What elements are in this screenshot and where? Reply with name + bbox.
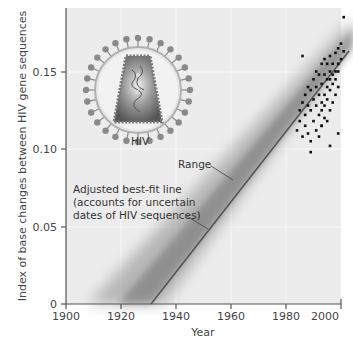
data-point [331, 63, 334, 66]
data-point [331, 101, 334, 104]
x-tick-label: 1940 [162, 310, 190, 323]
x-axis-title: Year [190, 326, 215, 339]
data-point [334, 70, 337, 73]
chart: 0.15 0.10 0.05 0 1900 1920 1940 1960 198… [0, 0, 353, 349]
data-point [329, 145, 332, 148]
data-point [337, 47, 340, 50]
data-point [307, 104, 310, 107]
x-tick-label: 1980 [272, 310, 300, 323]
data-point [309, 109, 312, 112]
data-point [318, 94, 321, 97]
data-point [337, 63, 340, 66]
x-tick-label: 2000 [311, 310, 339, 323]
data-point [337, 86, 340, 89]
x-tick-label: 1900 [52, 310, 80, 323]
data-point [331, 73, 334, 76]
data-point [320, 101, 323, 104]
data-point [315, 104, 318, 107]
data-point [312, 78, 315, 81]
y-tick-label: 0.05 [33, 221, 58, 234]
data-point [315, 129, 318, 132]
data-point [304, 114, 307, 117]
data-point [326, 120, 329, 123]
data-point [342, 50, 345, 53]
data-point [320, 109, 323, 112]
data-point [320, 83, 323, 86]
data-point [326, 98, 329, 101]
data-point [296, 129, 299, 132]
data-point [329, 70, 332, 73]
data-point [329, 78, 332, 81]
data-point [329, 55, 332, 58]
data-point [323, 73, 326, 76]
fit-label-line-1: Adjusted best-fit line [73, 183, 182, 195]
fit-label-line-3: dates of HIV sequences) [73, 209, 201, 221]
data-point [315, 86, 318, 89]
data-point [326, 78, 329, 81]
data-point [312, 120, 315, 123]
data-point [320, 63, 323, 66]
data-point [334, 52, 337, 55]
y-axis-title: Index of base changes between HIV gene s… [16, 10, 29, 301]
y-tick-label: 0.15 [33, 66, 58, 79]
data-point [318, 73, 321, 76]
data-point [329, 89, 332, 92]
data-point [307, 132, 310, 135]
data-point [340, 58, 343, 61]
data-point [329, 109, 332, 112]
data-point [337, 70, 340, 73]
x-tick-label: 1960 [217, 310, 245, 323]
data-point [331, 83, 334, 86]
range-label: Range [178, 158, 211, 170]
data-point [334, 94, 337, 97]
data-point [307, 86, 310, 89]
data-point [326, 86, 329, 89]
data-point [315, 70, 318, 73]
data-point [298, 109, 301, 112]
data-point [323, 58, 326, 61]
data-point [309, 89, 312, 92]
data-point [301, 55, 304, 58]
data-point [304, 94, 307, 97]
data-point [323, 117, 326, 120]
fit-label-line-2: (accounts for uncertain [73, 196, 196, 208]
hiv-label: HIV [131, 135, 150, 147]
data-point [318, 114, 321, 117]
data-point [326, 63, 329, 66]
y-tick-label: 0.10 [33, 143, 58, 156]
data-point [320, 125, 323, 128]
x-tick-label: 1920 [107, 310, 135, 323]
data-point [301, 135, 304, 138]
data-point [312, 98, 315, 101]
data-point [304, 125, 307, 128]
data-point [334, 78, 337, 81]
data-point [342, 16, 345, 19]
data-point [323, 94, 326, 97]
data-point [318, 135, 321, 138]
data-point [309, 140, 312, 143]
data-point [323, 104, 326, 107]
data-point [298, 120, 301, 123]
data-point [301, 101, 304, 104]
data-point [337, 132, 340, 135]
data-point [340, 42, 343, 45]
data-point [309, 151, 312, 154]
